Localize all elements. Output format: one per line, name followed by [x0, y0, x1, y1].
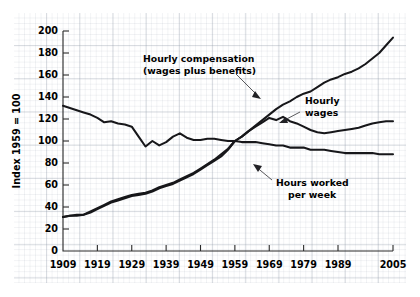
hours-worked-label-line2: per week	[288, 189, 337, 200]
y-tick-label: 0	[51, 245, 58, 256]
series-line-1	[63, 117, 393, 217]
y-tick-label: 100	[38, 135, 58, 146]
hourly-wages-label-line2: wages	[305, 107, 339, 118]
x-tick-label: 1969	[256, 259, 283, 270]
y-tick-label: 140	[38, 91, 58, 102]
x-tick-label: 1939	[153, 259, 180, 270]
x-axis-ticks	[97, 245, 393, 251]
x-tick-label: 1979	[290, 259, 317, 270]
chart-page: 020406080100120140160180200 190919191929…	[0, 0, 420, 297]
hourly-compensation-label-line1: Hourly compensation	[143, 53, 254, 64]
y-tick-label: 80	[45, 157, 59, 168]
y-tick-label: 160	[38, 69, 58, 80]
hourly-wages-label-line1: Hourly	[305, 95, 340, 106]
y-tick-label: 200	[38, 25, 58, 36]
hours-worked-label-line1: Hours worked	[276, 177, 349, 188]
y-tick-label: 180	[38, 47, 58, 58]
x-tick-label: 2005	[380, 259, 407, 270]
x-tick-label: 1909	[50, 259, 77, 270]
annotation-leaders	[236, 74, 300, 180]
y-tick-label: 40	[45, 201, 59, 212]
y-tick-label: 120	[38, 113, 58, 124]
x-tick-label: 1989	[325, 259, 352, 270]
y-tick-label: 60	[45, 179, 59, 190]
annotation-hours-worked: Hours worked per week	[276, 177, 349, 200]
y-tick-label: 20	[45, 223, 59, 234]
x-tick-label: 1949	[187, 259, 214, 270]
x-tick-label: 1929	[118, 259, 145, 270]
y-axis-ticks	[63, 31, 69, 229]
y-axis-title: Index 1959 = 100	[11, 93, 22, 188]
x-tick-label: 1959	[222, 259, 249, 270]
y-axis-tick-labels: 020406080100120140160180200	[38, 25, 58, 256]
x-tick-label: 1919	[84, 259, 111, 270]
hourly-compensation-label-line2: (wages plus benefits)	[143, 65, 256, 76]
annotation-hourly-wages: Hourly wages	[305, 95, 340, 118]
compensation-arrow-head	[252, 91, 261, 99]
x-axis-tick-labels: 1909191919291939194919591969197919892005	[50, 259, 407, 270]
annotation-hourly-compensation: Hourly compensation (wages plus benefits…	[143, 53, 256, 76]
line-chart: 020406080100120140160180200 190919191929…	[0, 0, 420, 297]
